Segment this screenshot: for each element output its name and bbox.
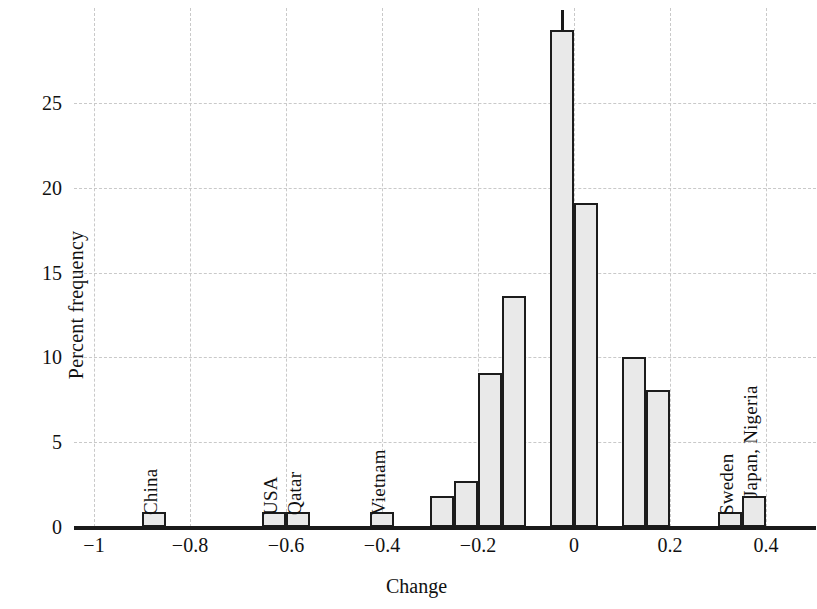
bar-annotation-label: Japan, Nigeria <box>740 385 762 498</box>
gridline-vertical <box>190 8 191 527</box>
histogram-bar <box>622 357 646 527</box>
histogram-bar <box>574 203 598 527</box>
histogram-bar <box>478 373 502 527</box>
x-axis-line <box>74 526 816 530</box>
histogram-bar <box>646 390 670 527</box>
x-axis-tick-label: 0.4 <box>754 534 779 557</box>
y-axis-tick-label: 25 <box>16 92 62 115</box>
y-axis-tick-label: 15 <box>16 261 62 284</box>
histogram-bar <box>550 30 574 527</box>
bar-annotation-label: China <box>140 468 162 514</box>
gridline-vertical <box>766 8 767 527</box>
gridline-horizontal <box>74 273 816 274</box>
y-axis-tick-label: 10 <box>16 346 62 369</box>
y-axis-tick-label: 0 <box>16 516 62 539</box>
bar-annotation-label: USA <box>260 476 282 515</box>
x-axis-tick-label: 0.2 <box>658 534 683 557</box>
y-axis-tick-label: 20 <box>16 176 62 199</box>
gridline-vertical <box>670 8 671 527</box>
x-axis-tick-label: −1 <box>83 534 104 557</box>
x-axis-tick-label: −0.6 <box>268 534 304 557</box>
x-axis-tick-label: −0.8 <box>172 534 208 557</box>
histogram-bar <box>454 481 478 527</box>
x-axis-title: Change <box>8 575 817 598</box>
gridline-horizontal <box>74 357 816 358</box>
x-axis-tick-label: −0.4 <box>364 534 400 557</box>
gridline-horizontal <box>74 442 816 443</box>
bar-annotation-label: Qatar <box>284 471 306 514</box>
x-axis-tick-label: 0 <box>569 534 579 557</box>
gridline-horizontal <box>74 103 816 104</box>
x-axis-tick-label: −0.2 <box>460 534 496 557</box>
peak-marker-tick <box>561 10 564 30</box>
y-axis-tick-label: 5 <box>16 431 62 454</box>
gridline-vertical <box>286 8 287 527</box>
bar-annotation-label: Vietnam <box>368 449 390 515</box>
gridline-horizontal <box>74 188 816 189</box>
histogram-bar <box>430 496 454 527</box>
gridline-vertical <box>94 8 95 527</box>
histogram-bar <box>742 496 766 527</box>
histogram-bar <box>502 296 526 527</box>
histogram-chart: Percent frequency Change 0510152025 −1−0… <box>0 0 817 609</box>
bar-annotation-label: Sweden <box>716 453 738 514</box>
